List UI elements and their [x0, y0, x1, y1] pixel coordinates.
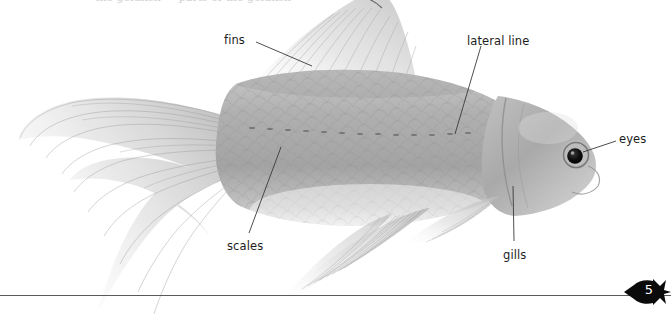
page-number-marker: 5	[622, 277, 671, 307]
fish-marker-icon	[622, 277, 671, 307]
label-lateral-line: lateral line	[467, 34, 529, 48]
label-fins: fins	[224, 33, 245, 47]
eye-pupil	[567, 148, 583, 164]
label-scales: scales	[227, 239, 263, 253]
footer-rule	[0, 295, 671, 296]
caudal-fin	[18, 97, 236, 314]
label-gills: gills	[503, 248, 526, 262]
fish-eye	[562, 141, 591, 170]
label-eyes: eyes	[619, 132, 646, 146]
figure-page: the goldfish — parts of the goldfish	[0, 0, 671, 317]
goldfish-illustration	[0, 0, 671, 317]
